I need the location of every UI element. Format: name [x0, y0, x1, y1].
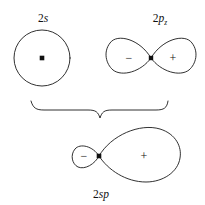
- diagram-canvas: 2s − + 2pz − + 2sp: [0, 0, 205, 205]
- s-orbital-nucleus-dot: [40, 56, 45, 61]
- p-orbital-nucleus-dot: [149, 56, 153, 60]
- sp-orbital-label-symbol: sp: [99, 188, 109, 201]
- orbital-hybridization-figure: 2s − + 2pz − + 2sp: [0, 0, 205, 205]
- combination-brace-group: [31, 101, 168, 118]
- p-orbital-group: − + 2pz: [106, 12, 196, 73]
- s-orbital-label-symbol: s: [44, 12, 49, 24]
- sp-orbital-nucleus-dot: [97, 154, 102, 159]
- sp-orbital-minus-sign: −: [81, 149, 88, 163]
- sp-orbital-group: − + 2sp: [72, 127, 180, 201]
- combination-brace: [31, 101, 168, 118]
- p-orbital-minus-sign: −: [126, 51, 133, 65]
- sp-orbital-plus-sign: +: [141, 149, 148, 163]
- p-orbital-label-subscript: z: [163, 18, 167, 27]
- p-orbital-plus-sign: +: [170, 51, 177, 65]
- sp-orbital-label: 2sp: [93, 188, 109, 201]
- p-orbital-label: 2pz: [153, 12, 168, 27]
- s-orbital-label: 2s: [38, 12, 49, 24]
- s-orbital-group: 2s: [14, 12, 70, 86]
